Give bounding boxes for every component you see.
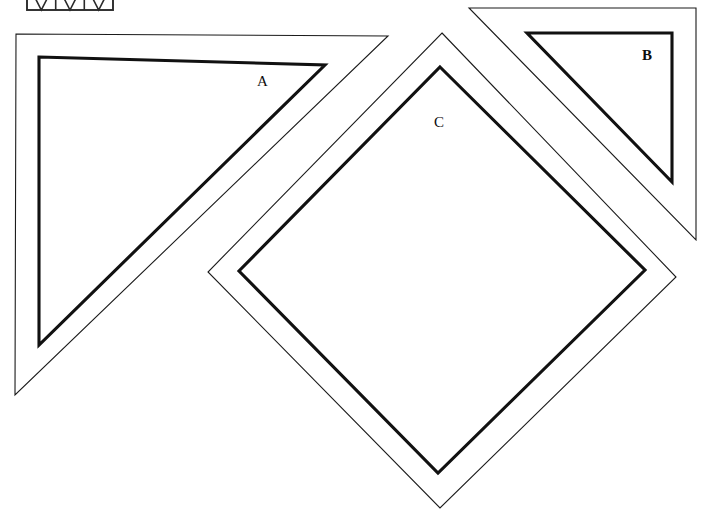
figure-c-group [208, 33, 676, 508]
figure-b-group [469, 8, 696, 240]
geometry-figure-canvas [0, 0, 715, 517]
figure-a-label: A [257, 74, 268, 89]
figure-a-outer-outline [15, 34, 388, 395]
figure-b-label: B [642, 48, 652, 63]
figure-sheet: A B C [0, 0, 715, 517]
figure-b-outer-outline [469, 8, 696, 240]
figure-a-group [15, 34, 388, 395]
truss-thumbnail-group [27, 0, 113, 10]
truss-diagonal-bracing [27, 0, 113, 10]
figure-c-label: C [434, 115, 444, 130]
figure-c-outer-outline [208, 33, 676, 508]
figure-a-inner-outline [39, 57, 325, 345]
